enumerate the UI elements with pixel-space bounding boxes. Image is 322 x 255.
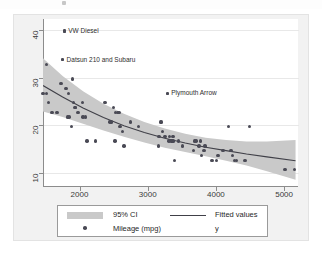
x-tick-label-4000: 4000 (196, 190, 236, 199)
y-tick-10 (39, 173, 43, 174)
chart-legend: 95% CI Fitted values Mileage (mpg) y (57, 205, 268, 237)
legend-label-ci: 95% CI (113, 210, 138, 219)
annotation-label: Datsun 210 and Subaru (67, 57, 136, 64)
y-tick-label-20: 20 (31, 126, 40, 156)
legend-dot-swatch (83, 226, 87, 230)
y-tick-label-30: 30 (31, 78, 40, 108)
annotation-label: VW Diesel (68, 28, 98, 35)
legend-band-swatch (67, 212, 103, 219)
legend-label-mileage: Mileage (mpg) (113, 224, 161, 233)
y-tick-20 (39, 125, 43, 126)
annotation-label: Plymouth Arrow (171, 90, 217, 97)
y-tick-40 (39, 30, 43, 31)
legend-line-swatch (170, 215, 206, 216)
x-tick-label-3000: 3000 (128, 190, 168, 199)
annotation-marker (63, 29, 66, 32)
annotation-marker (61, 58, 64, 61)
y-tick-label-10: 10 (31, 173, 40, 203)
scan-top-strip (0, 0, 322, 9)
y-tick-label-40: 40 (31, 31, 40, 61)
legend-label-fitted: Fitted values (215, 210, 258, 219)
annotation-marker (166, 92, 169, 95)
x-tick-label-5000: 5000 (264, 190, 304, 199)
legend-label-y: y (215, 224, 219, 233)
y-tick-30 (39, 78, 43, 79)
x-tick-label-2000: 2000 (60, 190, 100, 199)
scan-artifact-mark (62, 1, 66, 5)
annotations-layer: VW DieselDatsun 210 and SubaruPlymouth A… (43, 19, 298, 187)
chart-screenshot: VW DieselDatsun 210 and SubaruPlymouth A… (0, 0, 322, 255)
